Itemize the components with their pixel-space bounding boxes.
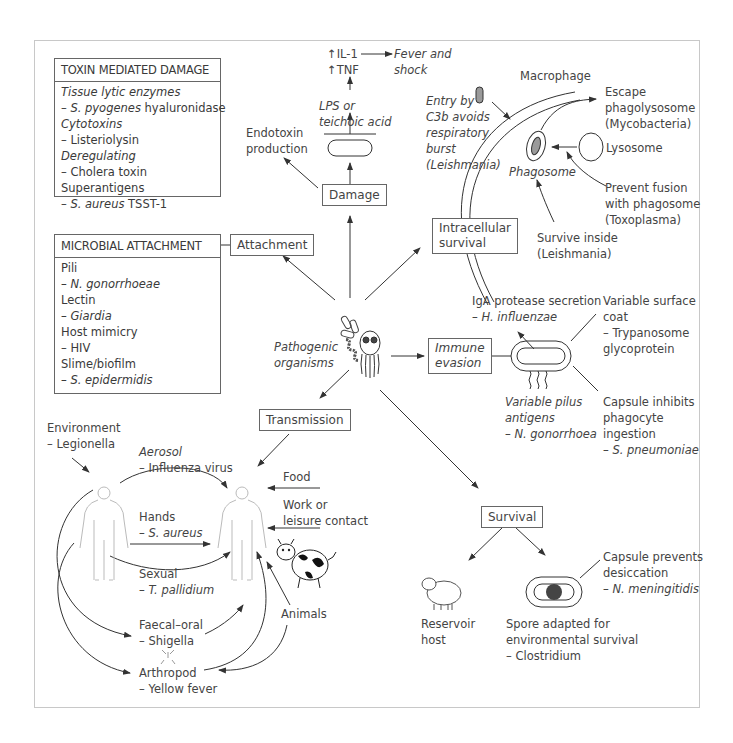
- capsule-prevents-label: Capsule prevents desiccation – N. mening…: [603, 549, 703, 597]
- panel-item: Slime/biofilm: [61, 356, 214, 372]
- mosquito-icon: [161, 650, 175, 664]
- panel-item: Host mimicry: [61, 324, 214, 340]
- endotoxin-label: Endotoxinproduction: [246, 125, 308, 157]
- panel-item: Cytotoxins: [61, 116, 214, 132]
- cow-icon: [277, 539, 336, 588]
- panel-item: – Listeriolysin: [61, 132, 214, 148]
- capsule-inhibits-label: Capsule inhibits phagocyte ingestion – S…: [603, 394, 699, 458]
- animals-label: Animals: [281, 606, 327, 622]
- pathogenic-organisms-label: Pathogenicorganisms: [274, 339, 338, 371]
- panel-item: – Giardia: [61, 308, 214, 324]
- panel-title: MICROBIAL ATTACHMENT: [55, 235, 220, 258]
- giardia-icon: [360, 331, 380, 378]
- arthropod-label: Arthropod – Yellow fever: [139, 665, 217, 697]
- escape-label: Escape phagolysosome (Mycobacteria): [605, 84, 695, 132]
- intracellular-survival-box: Intracellular survival: [432, 218, 518, 254]
- panel-item: Pili: [61, 260, 214, 276]
- immune-evasion-box: Immune evasion: [428, 338, 492, 374]
- hands-label: Hands – S. aureus: [139, 509, 202, 541]
- panel-item: – Cholera toxin: [61, 164, 214, 180]
- attachment-box: Attachment: [230, 234, 314, 256]
- survival-box: Survival: [481, 506, 543, 528]
- prevent-fusion-label: Prevent fusion with phagosome (Toxoplasm…: [605, 180, 700, 228]
- panel-item: – S. aureus TSST-1: [61, 196, 214, 212]
- toxin-mediated-damage-panel: TOXIN MEDIATED DAMAGE Tissue lytic enzym…: [54, 58, 221, 197]
- iga-protease-label: IgA protease secretion – H. influenzae: [472, 293, 601, 325]
- work-leisure-label: Work or leisure contact: [283, 497, 368, 529]
- macrophage-label: Macrophage: [520, 68, 591, 84]
- microbial-attachment-panel: MICROBIAL ATTACHMENT Pili – N. gonorrhoe…: [54, 234, 221, 394]
- human-figure-icon: [80, 487, 128, 580]
- panel-item: – HIV: [61, 340, 214, 356]
- variable-pilus-label: Variable pilus antigens – N. gonorrhoea: [505, 394, 597, 442]
- environment-label: Environment – Legionella: [47, 420, 120, 452]
- panel-title: TOXIN MEDIATED DAMAGE: [55, 59, 220, 82]
- panel-item: – S. pyogenes hyaluronidase: [61, 100, 214, 116]
- panel-item: – S. epidermidis: [61, 372, 214, 388]
- entry-c3b-label: Entry by C3b avoids respiratory burst (L…: [426, 93, 501, 173]
- tnf-label: ↑TNF: [327, 62, 359, 78]
- survive-inside-label: Survive inside (Leishmania): [537, 230, 618, 262]
- sexual-label: Sexual – T. pallidium: [139, 566, 214, 598]
- aerosol-label: Aerosol – Influenza virus: [139, 444, 233, 476]
- panel-item: Tissue lytic enzymes: [61, 84, 214, 100]
- lps-label: LPS orteichoic acid: [319, 98, 391, 130]
- panel-item: Lectin: [61, 292, 214, 308]
- food-label: Food: [283, 469, 311, 485]
- variable-coat-label: Variable surface coat – Trypanosome glyc…: [603, 293, 696, 357]
- human-figure-icon: [218, 487, 266, 580]
- il1-label: ↑IL-1: [327, 46, 358, 62]
- phagosome-label: Phagosome: [509, 164, 576, 180]
- spore-label: Spore adapted for environmental survival…: [506, 616, 638, 664]
- panel-item: Deregulating: [61, 148, 214, 164]
- bacteria-cluster-icon: [340, 315, 359, 338]
- transmission-box: Transmission: [259, 409, 351, 431]
- reservoir-host-label: Reservoir host: [421, 616, 475, 648]
- lysosome-label: Lysosome: [606, 140, 663, 156]
- sheep-icon: [422, 578, 461, 610]
- panel-item: – N. gonorrhoeae: [61, 276, 214, 292]
- damage-box: Damage: [322, 184, 387, 206]
- fever-shock-label: Fever andshock: [394, 46, 452, 78]
- faecal-oral-label: Faecal–oral – Shigella: [139, 617, 203, 649]
- spirochete-icon: [344, 339, 359, 362]
- panel-item: Superantigens: [61, 180, 214, 196]
